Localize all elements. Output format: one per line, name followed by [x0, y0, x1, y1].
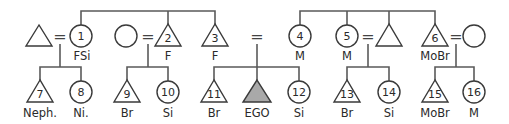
person-9: 9 Br [114, 80, 140, 120]
descent-lines [40, 44, 474, 81]
generation-2: 7 Neph. 8 Ni. 9 Br 10 Si 11 Br EGO [23, 80, 485, 120]
person-8-number: 8 [78, 86, 85, 99]
person-14: 14 Si [378, 81, 400, 120]
person-6: 6 MoBr [420, 24, 450, 63]
person-3-number: 3 [212, 32, 219, 45]
person-11-number: 11 [207, 88, 221, 101]
ego: EGO [243, 80, 271, 120]
person-11: 11 Br [201, 80, 227, 120]
marriage-symbol: = [449, 27, 462, 46]
unnamed-triangle [376, 24, 402, 46]
person-5-number: 5 [344, 30, 351, 43]
person-9-label: Br [121, 106, 134, 120]
person-10: 10 Si [157, 81, 179, 120]
person-9-number: 9 [124, 88, 131, 101]
person-15-label: MoBr [420, 106, 450, 120]
person-1-number: 1 [78, 30, 85, 43]
person-2-label: F [165, 49, 172, 63]
person-4-label: M [295, 49, 305, 63]
person-3-label: F [212, 49, 219, 63]
marriage-symbol: = [250, 27, 263, 46]
person-1: 1 FSi [70, 25, 92, 63]
person-8: 8 Ni. [70, 81, 92, 120]
marriage-symbol: = [141, 27, 154, 46]
left-spouse-triangle [26, 25, 52, 46]
person-7-label: Neph. [23, 106, 57, 120]
person-2-number: 2 [165, 32, 172, 45]
person-5: 5 M [336, 25, 358, 63]
person-4: 4 M [289, 25, 311, 63]
person-6-number: 6 [432, 32, 439, 45]
person-12-number: 12 [292, 86, 306, 99]
person-2: 2 F [155, 24, 181, 63]
person-7-number: 7 [37, 88, 44, 101]
person-12-label: Si [294, 106, 305, 120]
person-16-label: M [469, 106, 479, 120]
person-13-number: 13 [340, 88, 354, 101]
person-10-number: 10 [161, 86, 175, 99]
person-3: 3 F [202, 24, 228, 63]
person-7: 7 Neph. [23, 80, 57, 120]
kinship-diagram: = 1 FSi = 2 F 3 F = 4 M 5 M [0, 0, 509, 124]
person-15: 15 MoBr [420, 80, 450, 120]
ego-label: EGO [244, 106, 269, 120]
person-8-label: Ni. [73, 106, 88, 120]
person-12: 12 Si [288, 81, 310, 120]
sibling-lines-top [81, 11, 435, 25]
person-13: 13 Br [334, 80, 360, 120]
person-6-label: MoBr [420, 49, 450, 63]
person-14-label: Si [384, 106, 395, 120]
unnamed-circle [115, 25, 137, 47]
person-10-label: Si [163, 106, 174, 120]
person-15-number: 15 [428, 88, 442, 101]
person-1-label: FSi [74, 49, 91, 63]
marriage-symbol: = [361, 27, 374, 46]
person-16: 16 M [463, 81, 485, 120]
generation-1: = 1 FSi = 2 F 3 F = 4 M 5 M [26, 24, 485, 63]
marriage-symbol: = [53, 27, 66, 46]
person-4-number: 4 [297, 30, 304, 43]
person-14-number: 14 [382, 86, 396, 99]
person-5-label: M [342, 49, 352, 63]
person-11-label: Br [208, 106, 221, 120]
person-13-label: Br [341, 106, 354, 120]
person-16-number: 16 [467, 86, 481, 99]
right-spouse-circle [463, 25, 485, 47]
